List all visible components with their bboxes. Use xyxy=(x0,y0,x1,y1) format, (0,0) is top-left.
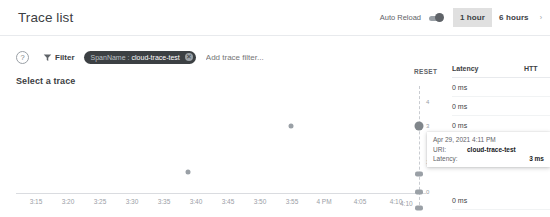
tooltip-uri-key: URI: xyxy=(433,146,467,153)
trace-data-point[interactable] xyxy=(289,124,294,129)
column-header-http[interactable]: HTT xyxy=(524,65,538,72)
x-axis-tick: 4:05 xyxy=(354,198,367,205)
tooltip-latency-value: 3 ms xyxy=(529,155,544,162)
cell-latency: 0 ms xyxy=(452,84,467,91)
y-axis-marker[interactable] xyxy=(415,122,424,131)
page-header: Trace list Auto Reload 1 hour 6 hours › xyxy=(0,0,550,36)
trace-tooltip: Apr 29, 2021 4:11 PM URI: cloud-trace-te… xyxy=(427,132,550,167)
cell-latency: 0 ms xyxy=(452,103,467,110)
table-row[interactable]: 0 ms xyxy=(452,191,550,210)
range-button-1-hour[interactable]: 1 hour xyxy=(453,8,492,27)
y-axis-tick: 4 xyxy=(426,99,429,105)
filter-funnel-icon[interactable] xyxy=(43,48,52,66)
tooltip-latency-row: Latency: 3 ms xyxy=(433,155,544,162)
x-axis-tick: 3:20 xyxy=(62,198,75,205)
table-row[interactable]: 0 ms xyxy=(452,97,550,116)
auto-reload-toggle[interactable] xyxy=(427,13,444,22)
cell-latency: 0 ms xyxy=(452,122,467,129)
tooltip-uri-value: cloud-trace-test xyxy=(467,146,516,153)
x-axis-tick: 3:30 xyxy=(126,198,139,205)
auto-reload-label: Auto Reload xyxy=(380,13,421,22)
x-axis-tick: 3:35 xyxy=(158,198,171,205)
tooltip-latency-key: Latency: xyxy=(433,155,467,162)
y-axis-marker[interactable] xyxy=(415,206,423,211)
chip-value: cloud-trace-test xyxy=(132,54,180,61)
header-controls: Auto Reload 1 hour 6 hours › xyxy=(380,8,544,27)
column-header-latency[interactable]: Latency xyxy=(452,65,478,72)
y-axis-tick: 3 xyxy=(426,123,429,129)
y-axis-marker[interactable] xyxy=(415,190,423,195)
section-title: Select a trace xyxy=(16,76,75,86)
table-row[interactable]: 0 ms xyxy=(452,78,550,97)
help-circle-icon[interactable]: ? xyxy=(16,51,29,64)
chip-separator: : xyxy=(128,54,130,61)
trace-data-point[interactable] xyxy=(186,170,191,175)
reset-button[interactable]: RESET xyxy=(414,68,437,75)
chip-key: SpanName xyxy=(91,54,126,61)
table-header-row: Latency HTT xyxy=(452,62,550,78)
axis-end-label: 4:10 xyxy=(400,200,413,207)
trace-scatter-chart[interactable]: 3:15 3:20 3:25 3:30 3:35 3:40 3:45 3:50 … xyxy=(16,88,426,194)
x-axis-tick: 4 PM xyxy=(316,198,331,205)
y-axis-marker[interactable] xyxy=(415,172,423,177)
chart-plot-area[interactable] xyxy=(16,88,426,194)
add-trace-filter-input[interactable] xyxy=(206,53,396,62)
chevron-right-icon[interactable]: › xyxy=(540,14,542,21)
cell-latency: 0 ms xyxy=(452,197,467,204)
filter-label[interactable]: Filter xyxy=(55,53,75,62)
close-icon[interactable]: ✕ xyxy=(185,53,193,61)
y-axis-tick: 0 xyxy=(426,189,429,195)
x-axis-tick: 3:15 xyxy=(30,198,43,205)
tooltip-timestamp: Apr 29, 2021 4:11 PM xyxy=(433,136,544,143)
toggle-knob xyxy=(435,13,444,22)
range-button-6-hours[interactable]: 6 hours xyxy=(492,8,536,27)
x-axis-tick: 3:45 xyxy=(222,198,235,205)
page-title: Trace list xyxy=(18,10,73,25)
x-axis-tick: 3:40 xyxy=(190,198,203,205)
x-axis-tick: 3:25 xyxy=(94,198,107,205)
x-axis-tick: 3:55 xyxy=(286,198,299,205)
x-axis-tick: 3:50 xyxy=(254,198,267,205)
tooltip-uri-row: URI: cloud-trace-test xyxy=(433,146,544,153)
filter-chip-spanname[interactable]: SpanName : cloud-trace-test ✕ xyxy=(84,51,196,64)
